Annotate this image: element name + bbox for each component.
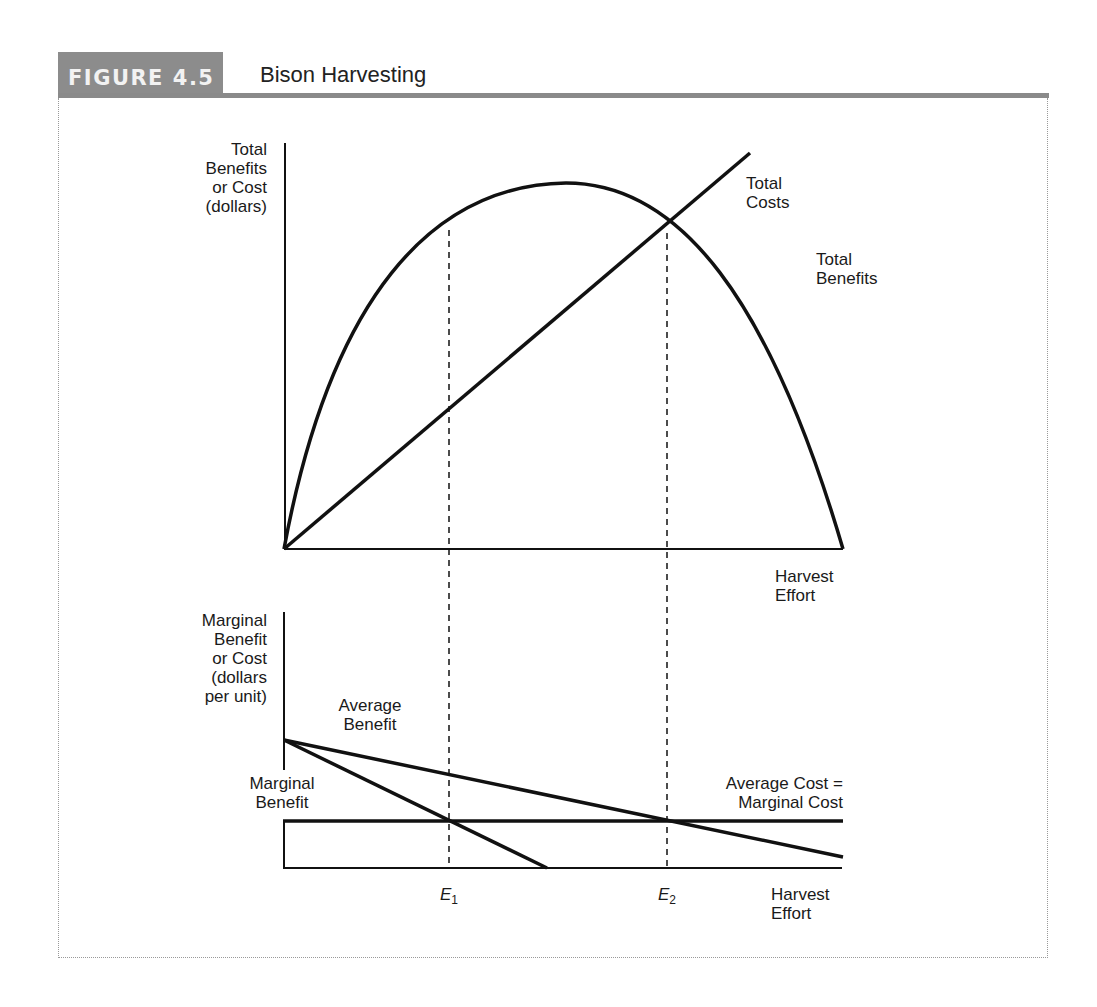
label-line: Marginal Cost (680, 793, 843, 812)
total-costs-line (284, 153, 750, 549)
marker-letter: E (440, 885, 451, 904)
total-benefits-label: Total Benefits (816, 250, 877, 288)
label-line: Average (330, 696, 410, 715)
label-line: Marginal (160, 611, 267, 630)
total-benefits-curve (284, 183, 843, 549)
total-costs-label: Total Costs (746, 174, 789, 212)
bottom-x-axis-label: Harvest Effort (771, 885, 830, 923)
label-line: Benefit (240, 793, 324, 812)
label-line: (dollars) (170, 197, 267, 216)
label-line: Total (816, 250, 877, 269)
top-x-axis-label: Harvest Effort (775, 567, 834, 605)
label-line: Effort (775, 586, 834, 605)
label-line: Costs (746, 193, 789, 212)
label-line: (dollars (160, 668, 267, 687)
label-line: or Cost (170, 178, 267, 197)
average-marginal-cost-label: Average Cost = Marginal Cost (680, 774, 843, 812)
label-line: Benefit (160, 630, 267, 649)
label-line: Harvest (775, 567, 834, 586)
label-line: Marginal (240, 774, 324, 793)
label-line: Average Cost = (680, 774, 843, 793)
label-line: Effort (771, 904, 830, 923)
label-line: Benefit (330, 715, 410, 734)
label-line: Total (170, 140, 267, 159)
top-y-axis-label: Total Benefits or Cost (dollars) (170, 140, 267, 216)
e1-marker-label: E1 (440, 885, 458, 910)
e2-marker-label: E2 (658, 885, 676, 910)
label-line: or Cost (160, 649, 267, 668)
marker-subscript: 1 (451, 893, 458, 907)
average-benefit-label: Average Benefit (330, 696, 410, 734)
label-line: Benefits (816, 269, 877, 288)
label-line: Benefits (170, 159, 267, 178)
marginal-benefit-label: Marginal Benefit (240, 774, 324, 812)
chart-diagram (0, 0, 1097, 1007)
marker-subscript: 2 (669, 893, 676, 907)
label-line: per unit) (160, 687, 267, 706)
bottom-y-axis-label: Marginal Benefit or Cost (dollars per un… (160, 611, 267, 706)
label-line: Harvest (771, 885, 830, 904)
marker-letter: E (658, 885, 669, 904)
label-line: Total (746, 174, 789, 193)
